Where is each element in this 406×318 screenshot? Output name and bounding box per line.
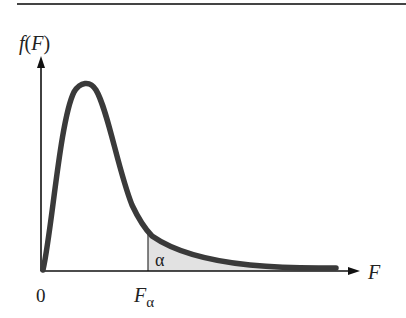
y-axis-label: f(F)	[19, 32, 50, 55]
density-curve	[43, 83, 336, 270]
tail-area-label: α	[155, 250, 165, 270]
y-axis-arrow-icon	[37, 56, 45, 68]
f-distribution-diagram: f(F) 0 Fα F α	[0, 0, 406, 318]
x-axis-arrow-icon	[348, 267, 360, 275]
x-axis-label: F	[367, 261, 381, 283]
critical-value-label: Fα	[133, 284, 154, 310]
origin-label: 0	[36, 285, 46, 306]
